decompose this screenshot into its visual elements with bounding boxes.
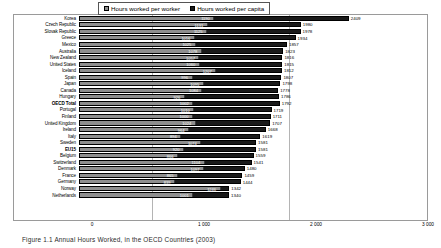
- bar-hours-per-capita[interactable]: [80, 154, 178, 157]
- bar-inner-value: 1000: [180, 115, 189, 119]
- bar-hours-per-worker[interactable]: 1246: [79, 186, 229, 191]
- bar-hours-per-capita[interactable]: [80, 82, 204, 85]
- bar-outer-value: 1340: [231, 193, 241, 198]
- bar-hours-per-capita[interactable]: [80, 43, 196, 46]
- bar-hours-per-capita[interactable]: [80, 174, 178, 177]
- bar-hours-per-capita[interactable]: [80, 161, 205, 164]
- bar-hours-per-worker[interactable]: 1207: [79, 68, 282, 73]
- bar-outer-value: 1786: [281, 94, 291, 99]
- bar-hours-per-capita[interactable]: [80, 89, 202, 92]
- bar-hours-per-worker[interactable]: 926: [79, 94, 279, 99]
- bar-inner-value: 1016: [181, 37, 190, 41]
- bar-hours-per-worker[interactable]: 1078: [79, 48, 283, 53]
- bar-rows: Korea11902409Czech Republic11311980Slova…: [0, 15, 415, 198]
- bar-hours-per-worker[interactable]: 1060: [79, 62, 282, 67]
- bar-hours-per-capita[interactable]: [80, 121, 196, 124]
- bar-row-label: Hungary: [0, 94, 79, 99]
- x-axis-tick: 2 000: [310, 222, 322, 227]
- bar-row-label: Portugal: [0, 107, 79, 112]
- bar-hours-per-capita[interactable]: [80, 17, 214, 20]
- bar-hours-per-capita[interactable]: [80, 23, 208, 26]
- bar-hours-per-worker[interactable]: 1131: [79, 22, 301, 27]
- bar-hours-per-capita[interactable]: [80, 180, 175, 183]
- bar-hours-per-worker[interactable]: 1074: [79, 140, 256, 145]
- bar-hours-per-worker[interactable]: 839: [79, 179, 241, 184]
- bar-hours-per-capita[interactable]: [80, 167, 204, 170]
- bar-hours-per-capita[interactable]: [80, 193, 193, 196]
- bar-inner-value: 1001: [180, 194, 189, 198]
- bar-hours-per-worker[interactable]: 1097: [79, 166, 245, 171]
- bar-hours-per-worker[interactable]: 1125: [79, 29, 301, 34]
- figure-caption: Figure 1.1 Annual Hours Worked, in the O…: [22, 236, 215, 243]
- bar-hours-per-capita[interactable]: [80, 108, 194, 111]
- bar-hours-per-capita[interactable]: [80, 76, 193, 79]
- bar-hours-per-capita[interactable]: [80, 135, 181, 138]
- bar-outer-value: 1541: [254, 160, 264, 165]
- bar-hours-per-worker[interactable]: 1010: [79, 107, 272, 112]
- bar-inner-value: 1207: [203, 70, 212, 74]
- bar-inner-value: 894: [170, 135, 177, 139]
- bar-hours-per-capita[interactable]: [80, 115, 193, 118]
- bar-outer-value: 1815: [284, 62, 294, 67]
- bar-outer-value: 1798: [282, 81, 292, 86]
- bar-inner-value: 996: [181, 76, 188, 80]
- bar-hours-per-worker[interactable]: 1104: [79, 160, 252, 165]
- bar-row-label: Sweden: [0, 140, 79, 145]
- bar-hours-per-capita[interactable]: [80, 128, 189, 131]
- bar-row-label: New Zealand: [0, 55, 79, 60]
- bar-hours-per-capita[interactable]: [80, 102, 193, 105]
- bar-hours-per-worker[interactable]: 964: [79, 127, 266, 132]
- bar-row-label: Mexico: [0, 42, 79, 47]
- bar-hours-per-worker[interactable]: 1084: [79, 88, 278, 93]
- bar-hours-per-worker[interactable]: 865: [79, 173, 242, 178]
- legend-label-worker: Hours worked per worker: [111, 5, 180, 12]
- bar-hours-per-worker[interactable]: 1057: [79, 55, 282, 60]
- bar-outer-value: 1823: [285, 49, 295, 54]
- bar-hours-per-capita[interactable]: [80, 187, 221, 190]
- bar-hours-per-worker[interactable]: 996: [79, 75, 281, 80]
- bar-row-label: Italy: [0, 134, 79, 139]
- bar-hours-per-worker[interactable]: 1016: [79, 35, 296, 40]
- legend-item-capita[interactable]: Hours worked per capita: [190, 5, 264, 12]
- bar-hours-per-worker[interactable]: 920: [79, 147, 256, 152]
- bar-inner-value: 926: [174, 96, 181, 100]
- x-axis-tick: 0: [91, 222, 94, 227]
- bar-outer-value: 1559: [256, 153, 266, 158]
- bar-row-label: Czech Republic: [0, 22, 79, 27]
- bar-hours-per-worker[interactable]: 1002: [79, 101, 280, 106]
- bar-inner-value: 866: [167, 155, 174, 159]
- bar-hours-per-worker[interactable]: 1095: [79, 81, 280, 86]
- bar-hours-per-capita[interactable]: [80, 95, 185, 98]
- bar-inner-value: 865: [167, 174, 174, 178]
- bar-hours-per-capita[interactable]: [80, 63, 200, 66]
- bar-inner-value: 839: [164, 181, 171, 185]
- bar-hours-per-worker[interactable]: 1001: [79, 192, 229, 197]
- bar-hours-per-worker[interactable]: 1190: [79, 16, 349, 21]
- bar-hours-per-capita[interactable]: [80, 36, 195, 39]
- bar-hours-per-capita[interactable]: [80, 141, 201, 144]
- bar-hours-per-worker[interactable]: 894: [79, 134, 260, 139]
- bar-hours-per-capita[interactable]: [80, 30, 207, 33]
- bar-track: 10011340: [79, 192, 415, 199]
- bar-outer-value: 1792: [282, 101, 292, 106]
- bar-hours-per-capita[interactable]: [80, 49, 202, 52]
- bar-outer-value: 1342: [231, 186, 241, 191]
- bar-hours-per-worker[interactable]: 1024: [79, 120, 270, 125]
- bar-hours-per-capita[interactable]: [80, 56, 199, 59]
- bar-row-label: Switzerland: [0, 160, 79, 165]
- bar-row-label: Belgium: [0, 153, 79, 158]
- bar-hours-per-worker[interactable]: 1000: [79, 114, 271, 119]
- bar-outer-value: 1778: [280, 88, 290, 93]
- x-axis-tick: 1 000: [198, 222, 210, 227]
- bar-inner-value: 1125: [194, 30, 203, 34]
- bar-hours-per-worker[interactable]: 866: [79, 153, 254, 158]
- bar-inner-value: 1084: [189, 89, 198, 93]
- bar-row-label: United States: [0, 62, 79, 67]
- bar-hours-per-worker[interactable]: 1025: [79, 42, 287, 47]
- bar-outer-value: 2409: [351, 16, 361, 21]
- legend-item-worker[interactable]: Hours worked per worker: [104, 5, 180, 12]
- bar-hours-per-capita[interactable]: [80, 148, 184, 151]
- bar-hours-per-capita[interactable]: [80, 69, 216, 72]
- bar-outer-value: 1444: [243, 180, 253, 185]
- x-axis-tick: 3 000: [422, 222, 434, 227]
